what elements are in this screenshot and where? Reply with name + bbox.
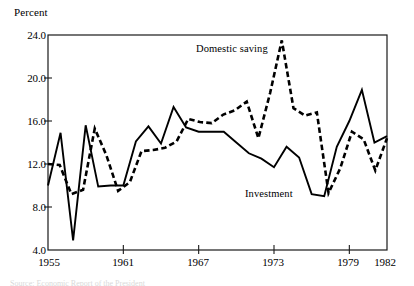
series-line-domestic-saving — [48, 40, 387, 194]
chart-axes — [48, 35, 387, 250]
plot-frame — [48, 35, 387, 250]
chart-ticks — [44, 78, 349, 254]
footnote-sliver: Source: Economic Report of the President — [10, 279, 404, 286]
chart-series-lines — [48, 40, 387, 240]
chart-plot-area — [0, 0, 414, 286]
series-line-investment — [48, 90, 387, 240]
chart-figure: Percent 24.0 20.0 16.0 12.0 8.0 4.0 1955… — [0, 0, 414, 286]
